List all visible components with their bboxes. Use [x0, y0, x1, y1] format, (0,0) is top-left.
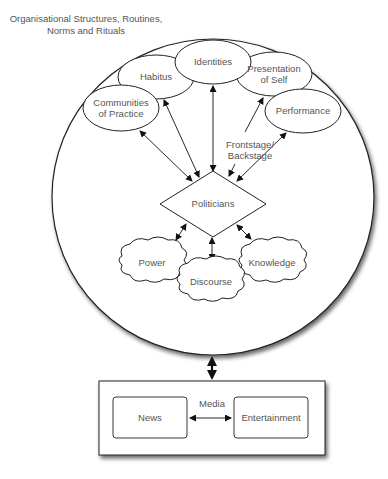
- context-title-line2: Norms and Rituals: [6, 25, 166, 37]
- label-frontstage-line1: Frontstage/: [220, 139, 280, 150]
- label-presentation-line1: Presentation: [234, 63, 314, 74]
- label-frontstage-line2: Backstage: [220, 150, 280, 161]
- label-discourse: Discourse: [171, 276, 251, 287]
- label-frontstage-backstage: Frontstage/ Backstage: [220, 139, 280, 161]
- label-presentation-line2: of Self: [234, 74, 314, 85]
- label-performance: Performance: [263, 105, 343, 116]
- label-media: Media: [192, 398, 232, 409]
- label-presentation-of-self: Presentation of Self: [234, 63, 314, 85]
- label-politicians: Politicians: [173, 198, 253, 209]
- context-title: Organisational Structures, Routines, Nor…: [6, 13, 166, 37]
- label-entertainment: Entertainment: [234, 412, 308, 423]
- label-knowledge: Knowledge: [232, 257, 312, 268]
- label-news: News: [113, 412, 187, 423]
- label-communities-of-practice: Communities of Practice: [81, 97, 161, 119]
- label-power: Power: [112, 257, 192, 268]
- label-communities-line1: Communities: [81, 97, 161, 108]
- label-habitus: Habitus: [116, 71, 196, 82]
- label-communities-line2: of Practice: [81, 108, 161, 119]
- context-title-line1: Organisational Structures, Routines,: [6, 13, 166, 25]
